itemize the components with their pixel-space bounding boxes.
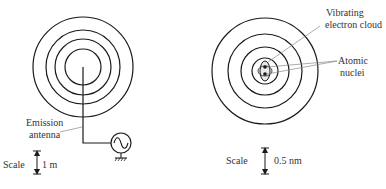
scale-bar-right: [261, 148, 269, 174]
scale-bar-left: [33, 151, 41, 174]
nucleus-icon: [263, 65, 267, 69]
antenna-label-line1: Emission: [26, 117, 63, 128]
cloud-leader-line: [268, 26, 320, 62]
scale-value-left: 1 m: [42, 159, 58, 170]
electron-cloud-icon: [258, 61, 272, 81]
ac-source-icon: [111, 133, 131, 153]
nucleus-icon: [263, 72, 267, 76]
scale-label-left: Scale: [3, 159, 25, 170]
cloud-label-line2: electron cloud: [325, 19, 382, 30]
atom-panel: Vibrating electron cloud Atomic nuclei S…: [212, 7, 382, 174]
antenna-panel: Emission antenna Scale 1 m: [3, 17, 133, 174]
nuclei-label-line1: Atomic: [338, 55, 369, 66]
nuclei-label-line2: nuclei: [340, 67, 365, 78]
scale-label-right: Scale: [226, 155, 248, 166]
ground-icon: [115, 153, 127, 161]
antenna-label-line2: antenna: [29, 129, 61, 140]
scale-value-right: 0.5 nm: [274, 155, 302, 166]
diagram-canvas: Emission antenna Scale 1 m Vibrating ele: [0, 0, 386, 189]
antenna-leader-line: [60, 127, 82, 132]
cloud-label-line1: Vibrating: [326, 7, 364, 18]
